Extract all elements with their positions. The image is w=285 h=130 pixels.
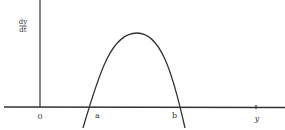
origin-label: 0 [37, 112, 42, 121]
x-axis [4, 107, 285, 108]
root-label-a: a [95, 111, 100, 120]
x-axis-label: y [254, 114, 260, 123]
y-axis-label-denominator: dt [19, 26, 26, 34]
root-label-b: b [172, 111, 177, 120]
y-axis-label-numerator: dy [19, 18, 27, 26]
diagram-canvas: dy dt 0 a b y [0, 0, 285, 130]
